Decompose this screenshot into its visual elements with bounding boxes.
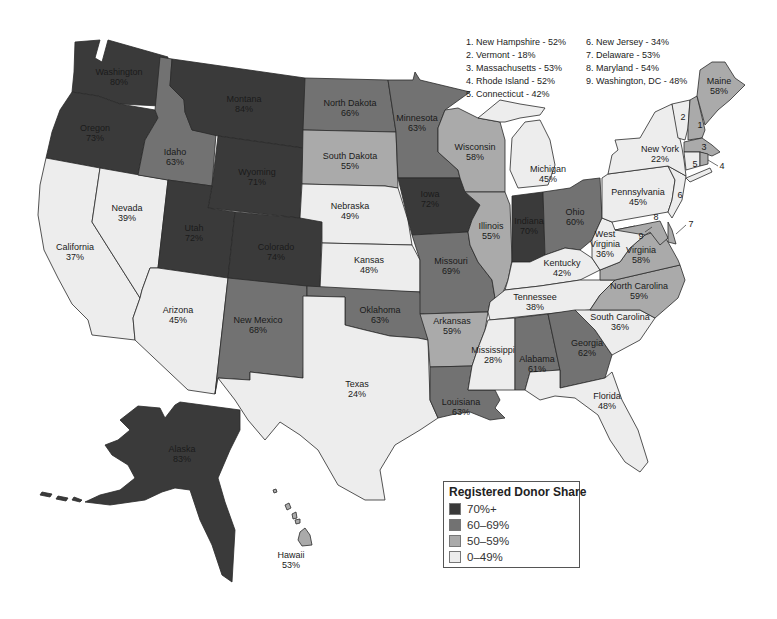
value-georgia: 62% (578, 348, 596, 358)
value-south-carolina: 36% (611, 322, 629, 332)
footnotes-right-column: 6. New Jersey - 34% 7. Delaware - 53% 8.… (586, 36, 687, 88)
label-missouri: Missouri (434, 256, 468, 266)
footnote-item: 8. Maryland - 54% (586, 62, 687, 75)
label-minnesota: Minnesota (396, 113, 438, 123)
state-delaware[interactable] (668, 222, 676, 244)
legend-label: 0–49% (467, 551, 503, 563)
marker-connecticut: 5 (692, 159, 697, 169)
legend-label: 50–59% (467, 535, 509, 547)
legend-item-60-69: 60–69% (449, 517, 574, 533)
value-north-dakota: 66% (341, 108, 359, 118)
label-west-virginia-line1: West (595, 229, 616, 239)
label-washington: Washington (95, 67, 142, 77)
label-south-carolina: South Carolina (590, 312, 650, 322)
value-wyoming: 71% (248, 177, 266, 187)
footnote-item: 6. New Jersey - 34% (586, 36, 687, 49)
label-arkansas: Arkansas (433, 316, 471, 326)
value-hawaii: 53% (282, 560, 300, 570)
label-mississippi: Mississippi (471, 345, 515, 355)
legend-swatch (449, 503, 461, 515)
label-oklahoma: Oklahoma (359, 305, 400, 315)
label-virginia: Virginia (626, 245, 656, 255)
label-tennessee: Tennessee (513, 292, 557, 302)
leader-rhode-island (708, 160, 718, 166)
value-wisconsin: 58% (466, 152, 484, 162)
label-georgia: Georgia (571, 338, 603, 348)
state-hawaii[interactable] (273, 489, 312, 546)
footnote-item: 2. Vermont - 18% (466, 49, 566, 62)
label-iowa: Iowa (420, 189, 439, 199)
legend-swatch (449, 551, 461, 563)
value-louisiana: 63% (452, 407, 470, 417)
label-hawaii: Hawaii (277, 550, 304, 560)
label-nevada: Nevada (111, 203, 142, 213)
state-michigan-upper[interactable] (478, 100, 545, 122)
label-louisiana: Louisiana (442, 397, 481, 407)
value-iowa: 72% (421, 199, 439, 209)
label-idaho: Idaho (164, 147, 187, 157)
value-utah: 72% (185, 233, 203, 243)
value-illinois: 55% (482, 231, 500, 241)
value-colorado: 74% (267, 252, 285, 262)
label-new-york: New York (641, 144, 680, 154)
label-alaska: Alaska (168, 444, 195, 454)
value-missouri: 69% (442, 266, 460, 276)
label-utah: Utah (184, 223, 203, 233)
label-ohio: Ohio (565, 207, 584, 217)
legend-swatch (449, 535, 461, 547)
value-oklahoma: 63% (371, 315, 389, 325)
value-nevada: 39% (118, 213, 136, 223)
leader-delaware (676, 225, 686, 234)
value-new-york: 22% (651, 154, 669, 164)
value-tennessee: 38% (526, 302, 544, 312)
value-virginia: 58% (632, 255, 650, 265)
value-maine: 58% (710, 86, 728, 96)
value-north-carolina: 59% (630, 291, 648, 301)
marker-maryland: 8 (653, 212, 658, 222)
state-alaska[interactable] (85, 402, 240, 582)
label-arizona: Arizona (163, 305, 194, 315)
marker-vermont: 2 (680, 112, 685, 122)
value-minnesota: 63% (408, 123, 426, 133)
long-island (686, 168, 712, 182)
value-nebraska: 49% (341, 211, 359, 221)
value-alaska: 83% (173, 454, 191, 464)
label-new-mexico: New Mexico (233, 315, 282, 325)
state-florida[interactable] (525, 370, 648, 472)
value-south-dakota: 55% (341, 161, 359, 171)
label-michigan: Michigan (530, 164, 566, 174)
label-wisconsin: Wisconsin (454, 142, 495, 152)
footnotes-left-column: 1. New Hampshire - 52% 2. Vermont - 18% … (466, 36, 566, 101)
footnote-item: 5. Connecticut - 42% (466, 88, 566, 101)
footnote-item: 7. Delaware - 53% (586, 49, 687, 62)
legend-item-70-plus: 70%+ (449, 501, 574, 517)
marker-rhode-island: 4 (719, 161, 724, 171)
footnote-item: 4. Rhode Island - 52% (466, 75, 566, 88)
value-montana: 84% (235, 104, 253, 114)
label-oregon: Oregon (80, 123, 110, 133)
value-west-virginia: 36% (596, 249, 614, 259)
value-indiana: 70% (520, 226, 538, 236)
label-north-dakota: North Dakota (323, 98, 376, 108)
label-west-virginia-line2: Virginia (590, 239, 620, 249)
label-nebraska: Nebraska (331, 201, 370, 211)
label-california: California (56, 242, 94, 252)
legend-title: Registered Donor Share (449, 485, 574, 499)
marker-dc: 9 (638, 231, 643, 241)
legend-swatch (449, 519, 461, 531)
legend-item-0-49: 0–49% (449, 549, 574, 565)
value-alabama: 61% (528, 364, 546, 374)
value-texas: 24% (348, 389, 366, 399)
value-ohio: 60% (566, 217, 584, 227)
value-florida: 48% (598, 401, 616, 411)
marker-new-hampshire: 1 (697, 120, 702, 130)
label-wyoming: Wyoming (238, 167, 275, 177)
label-indiana: Indiana (514, 216, 544, 226)
footnote-item: 3. Massachusetts - 53% (466, 62, 566, 75)
value-mississippi: 28% (484, 355, 502, 365)
value-oregon: 73% (86, 133, 104, 143)
value-arizona: 45% (169, 315, 187, 325)
state-arizona[interactable] (133, 268, 228, 394)
legend-item-50-59: 50–59% (449, 533, 574, 549)
state-rhode-island[interactable] (700, 152, 708, 166)
